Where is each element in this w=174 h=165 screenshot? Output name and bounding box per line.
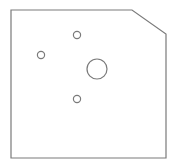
- background: [0, 0, 174, 165]
- plate-drawing: [0, 0, 174, 165]
